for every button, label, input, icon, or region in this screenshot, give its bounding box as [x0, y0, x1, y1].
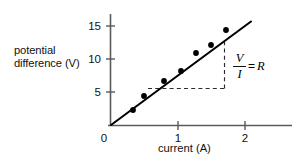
data-point [223, 27, 229, 33]
ratio-numerator: V [234, 52, 246, 66]
data-point [141, 93, 147, 99]
y-axis-label-line2: difference (V) [14, 57, 100, 70]
x-axis-label: current (A) [158, 142, 211, 155]
y-axis-label: potentialdifference (V) [14, 44, 100, 69]
resistance-symbol: R [257, 59, 265, 74]
data-point [130, 107, 136, 113]
graph-figure: 15 10 5 0 1 2 potentialdifference (V) cu… [0, 0, 305, 165]
plot-canvas: 15 10 5 0 1 2 [0, 0, 305, 165]
data-point [208, 42, 214, 48]
y-tick-label-5: 5 [95, 86, 101, 98]
x-tick-label-2: 2 [242, 132, 248, 144]
y-tick-label-15: 15 [88, 20, 101, 32]
ratio-annotation: V I = R [233, 52, 265, 80]
data-point [178, 68, 184, 74]
equals-sign: = [248, 59, 255, 73]
origin-label: 0 [101, 132, 107, 144]
data-point [193, 50, 199, 56]
data-point [161, 78, 167, 84]
y-axis-label-line1: potential [14, 44, 55, 56]
ratio-fraction: V I [233, 52, 246, 80]
ratio-denominator: I [235, 67, 243, 81]
